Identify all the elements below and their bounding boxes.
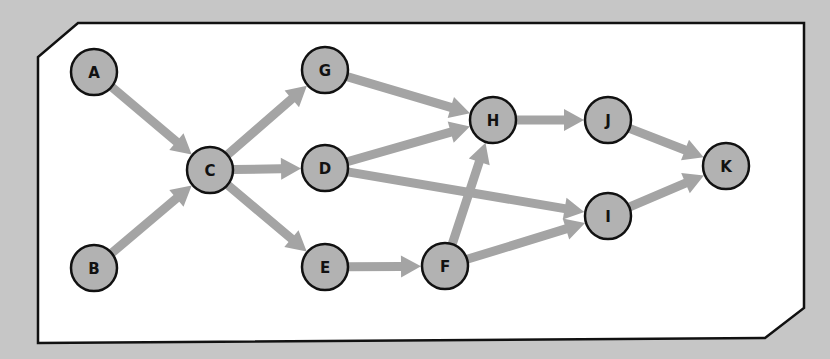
node-label: G bbox=[319, 62, 331, 80]
node-d: D bbox=[302, 145, 348, 191]
node-h: H bbox=[470, 97, 516, 143]
node-f: F bbox=[422, 243, 468, 289]
node-label: A bbox=[88, 64, 100, 82]
node-label: J bbox=[604, 112, 611, 130]
node-e: E bbox=[302, 244, 348, 290]
node-k: K bbox=[703, 143, 749, 189]
node-label: D bbox=[319, 160, 331, 178]
node-a: A bbox=[71, 49, 117, 95]
node-label: I bbox=[605, 208, 611, 226]
node-label: E bbox=[320, 259, 330, 277]
node-i: I bbox=[585, 193, 631, 239]
node-c: C bbox=[187, 147, 233, 193]
node-g: G bbox=[302, 47, 348, 93]
node-label: C bbox=[204, 162, 215, 180]
network-diagram: ABCGDEHFJIK bbox=[0, 0, 830, 359]
node-j: J bbox=[585, 97, 631, 143]
node-label: B bbox=[88, 260, 99, 278]
node-label: K bbox=[720, 158, 733, 176]
node-label: F bbox=[440, 258, 450, 276]
node-label: H bbox=[487, 112, 500, 130]
node-b: B bbox=[71, 245, 117, 291]
